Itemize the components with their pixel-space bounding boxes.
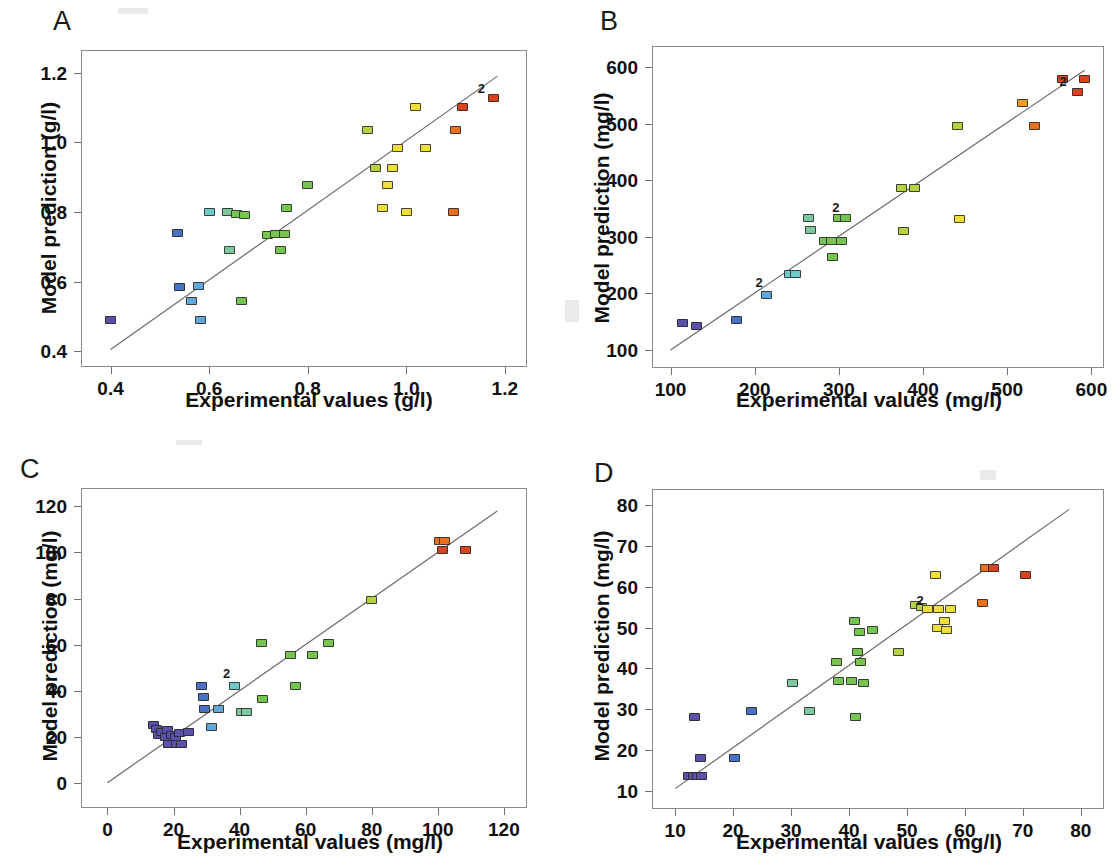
- data-point: [420, 144, 431, 152]
- panel-a-y-tick-label: 0.4: [15, 342, 67, 361]
- panel-d-y-tick-label: 60: [586, 578, 638, 597]
- panel-d-plot-area: [652, 489, 1104, 809]
- duplicate-point-annotation: 2: [1059, 75, 1066, 88]
- data-point: [183, 728, 194, 736]
- data-point: [729, 754, 740, 762]
- data-point: [790, 270, 801, 278]
- panel-a-letter: A: [53, 6, 71, 37]
- panel-a-x-tick: [308, 367, 309, 374]
- data-point: [846, 677, 857, 685]
- data-point: [224, 246, 235, 254]
- panel-b-y-tick-label: 600: [586, 58, 638, 77]
- panel-d-x-tick-label: 10: [645, 821, 705, 840]
- panel-d-x-tick: [733, 809, 734, 816]
- panel-a-x-tick: [505, 367, 506, 374]
- panel-b-letter: B: [600, 6, 618, 37]
- scan-artifact: [176, 440, 202, 445]
- data-point: [196, 682, 207, 690]
- panel-c-y-tick: [74, 691, 81, 692]
- data-point: [855, 658, 866, 666]
- panel-c-x-tick-label: 0: [77, 820, 137, 839]
- data-point: [285, 651, 296, 659]
- panel-d-y-tick-label: 80: [586, 496, 638, 515]
- panel-d-y-tick: [645, 628, 652, 629]
- data-point: [450, 126, 461, 134]
- panel-b-y-tick: [645, 350, 652, 351]
- panel-c-x-tick: [107, 808, 108, 815]
- panel-c-letter: C: [20, 454, 40, 485]
- data-point: [689, 713, 700, 721]
- panel-d-x-tick: [849, 809, 850, 816]
- panel-c-plot-area: [81, 488, 527, 808]
- panel-d-x-tick-label: 20: [703, 821, 763, 840]
- data-point: [731, 316, 742, 324]
- data-point: [867, 626, 878, 634]
- panel-b-x-tick: [1007, 368, 1008, 375]
- data-point: [457, 103, 468, 111]
- panel-c-x-tick-label: 20: [144, 820, 204, 839]
- panel-a-plot-area: [81, 50, 527, 367]
- panel-a-y-tick: [74, 142, 81, 143]
- panel-b-x-tick-label: 200: [725, 380, 785, 399]
- scan-artifact: [118, 8, 148, 14]
- panel-a-x-tick-label: 0.6: [179, 379, 239, 398]
- panel-b-x-tick: [671, 368, 672, 375]
- data-point: [387, 164, 398, 172]
- panel-a-x-tick-label: 0.4: [81, 379, 141, 398]
- data-point: [805, 226, 816, 234]
- panel-b-x-tick-label: 100: [641, 380, 701, 399]
- panel-b-x-tick-label: 500: [977, 380, 1037, 399]
- data-point: [836, 237, 847, 245]
- panel-c-x-tick: [240, 808, 241, 815]
- data-point: [977, 599, 988, 607]
- panel-c-y-tick: [74, 783, 81, 784]
- panel-a-y-tick-label: 1.2: [15, 64, 67, 83]
- data-point: [852, 648, 863, 656]
- data-point: [954, 215, 965, 223]
- panel-d-y-tick: [645, 587, 652, 588]
- data-point: [323, 639, 334, 647]
- panel-d-y-tick-label: 30: [586, 700, 638, 719]
- duplicate-point-annotation: 2: [478, 82, 485, 95]
- panel-d-x-tick: [907, 809, 908, 816]
- panel-b-x-tick: [755, 368, 756, 375]
- panel-a-y-tick: [74, 351, 81, 352]
- panel-c-x-tick: [438, 808, 439, 815]
- data-point: [392, 144, 403, 152]
- panel-c-y-tick-label: 80: [15, 590, 67, 609]
- panel-c-y-tick-label: 0: [15, 774, 67, 793]
- data-point: [239, 211, 250, 219]
- data-point: [174, 283, 185, 291]
- panel-b-y-tick-label: 500: [586, 115, 638, 134]
- data-point: [256, 639, 267, 647]
- panel-c-x-tick-label: 120: [474, 820, 534, 839]
- data-point: [105, 316, 116, 324]
- panel-d-x-tick-label: 70: [993, 821, 1053, 840]
- data-point: [988, 564, 999, 572]
- panel-c-y-tick-label: 120: [15, 497, 67, 516]
- data-point: [952, 122, 963, 130]
- data-point: [827, 253, 838, 261]
- duplicate-point-annotation: 2: [916, 594, 923, 607]
- data-point: [198, 693, 209, 701]
- panel-d-y-tick: [645, 546, 652, 547]
- data-point: [370, 164, 381, 172]
- data-point: [213, 705, 224, 713]
- data-point: [448, 208, 459, 216]
- data-point: [176, 740, 187, 748]
- data-point: [898, 227, 909, 235]
- data-point: [290, 682, 301, 690]
- data-point: [1072, 88, 1083, 96]
- panel-a-y-tick: [74, 212, 81, 213]
- panel-d-y-tick: [645, 668, 652, 669]
- panel-b-y-tick-label: 200: [586, 284, 638, 303]
- panel-d-y-tick-label: 40: [586, 659, 638, 678]
- panel-d-x-tick: [675, 809, 676, 816]
- panel-d-y-tick: [645, 791, 652, 792]
- data-point: [761, 291, 772, 299]
- data-point: [945, 605, 956, 613]
- panel-b-y-tick: [645, 67, 652, 68]
- panel-d-x-tick-label: 60: [935, 821, 995, 840]
- data-point: [302, 181, 313, 189]
